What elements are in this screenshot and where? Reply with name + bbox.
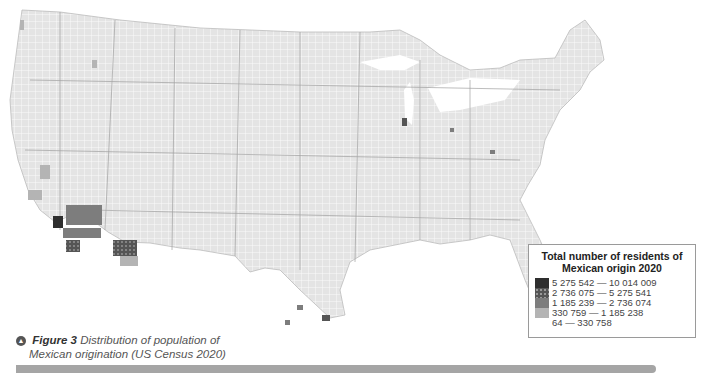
figure-caption: ▲ Figure 3 Distribution of population of… xyxy=(16,333,226,361)
chevron-up-circle-icon: ▲ xyxy=(16,336,26,346)
legend-item: 64 — 330 758 xyxy=(535,318,689,328)
county-los-angeles xyxy=(53,216,63,228)
caption-text-line2: Mexican origination (US Census 2020) xyxy=(16,347,226,361)
legend-swatch xyxy=(535,308,549,318)
caption-text-line1: Distribution of population of xyxy=(80,334,219,346)
county-san-bernardino xyxy=(66,205,102,225)
county-maricopa xyxy=(113,240,137,256)
bottom-divider-bar xyxy=(16,365,656,373)
legend-title-line2: Mexican origin 2020 xyxy=(535,262,689,274)
legend-label: 64 — 330 758 xyxy=(552,318,612,328)
map-legend: Total number of residents of Mexican ori… xyxy=(528,244,696,338)
legend-title-line1: Total number of residents of xyxy=(535,250,689,262)
county-pinal xyxy=(120,256,138,266)
county-harris xyxy=(322,315,330,321)
county-cook xyxy=(402,118,407,126)
county-san-diego xyxy=(66,240,80,252)
figure-label: Figure 3 xyxy=(32,334,77,346)
legend-swatch xyxy=(535,318,549,328)
legend-swatch xyxy=(535,278,549,288)
us-outline xyxy=(10,10,604,318)
legend-swatch xyxy=(535,298,549,308)
county-riverside xyxy=(63,228,101,238)
legend-swatch xyxy=(535,288,549,298)
